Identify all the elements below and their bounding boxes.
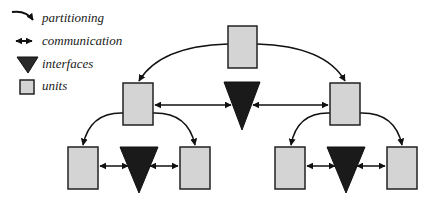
legend-label-communication: communication xyxy=(42,33,122,49)
edge-midright-brleft xyxy=(291,113,330,145)
edge-root-midleft xyxy=(139,44,228,81)
unit-root xyxy=(228,26,257,68)
partitioning-arrow-icon xyxy=(12,12,33,20)
interface-mid xyxy=(224,82,260,130)
unit-br-left xyxy=(275,147,305,189)
legend xyxy=(12,12,38,94)
unit-bl-left xyxy=(68,147,98,189)
edge-root-midright xyxy=(257,44,345,81)
interfaces xyxy=(120,82,365,193)
unit-mid-left xyxy=(123,83,153,125)
interface-bl xyxy=(120,147,158,193)
interface-br xyxy=(327,147,365,193)
diagram-canvas xyxy=(0,0,429,203)
edge-midleft-blright xyxy=(153,113,195,145)
edge-midright-brright xyxy=(360,113,402,145)
legend-label-interfaces: interfaces xyxy=(42,56,93,72)
unit-mid-right xyxy=(330,83,360,125)
unit-br-right xyxy=(387,147,417,189)
unit-bl-right xyxy=(180,147,210,189)
triangle-icon xyxy=(17,57,38,73)
legend-label-units: units xyxy=(42,78,67,94)
edge-midleft-blleft xyxy=(83,113,123,145)
legend-label-partitioning: partitioning xyxy=(42,10,104,26)
square-icon xyxy=(20,80,34,94)
